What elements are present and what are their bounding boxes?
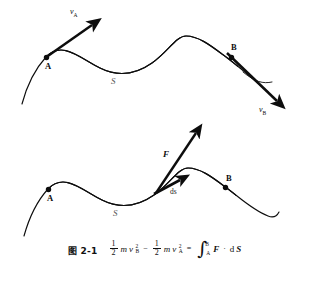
- figure-number: 图 2-1: [68, 240, 98, 257]
- dot-product-operator: ·: [221, 244, 228, 253]
- differential-d: d: [230, 244, 235, 254]
- upper-path-label: S: [111, 77, 116, 86]
- work-energy-equation: 1 2 m v 2 B − 1 2 m v 2 A = ∫: [109, 240, 242, 258]
- force-vector-arrow: [156, 133, 196, 193]
- displacement-ds-label: ds: [170, 188, 177, 196]
- lower-diagram: [24, 133, 279, 236]
- lower-path-label: S: [113, 209, 118, 218]
- velocity-a-arrow: [45, 25, 92, 58]
- velocity-a-label: vA: [70, 8, 78, 18]
- integral: ∫ B A: [197, 241, 210, 256]
- speed-symbol-a: v: [172, 244, 176, 254]
- upper-point-b-label: B: [231, 43, 237, 52]
- lower-point-b-label: B: [226, 174, 232, 183]
- lower-point-a-label: A: [47, 194, 53, 203]
- speed-b-indices: 2 B: [136, 244, 140, 254]
- lower-trajectory-curve: [24, 168, 279, 236]
- figure-caption: 图 2-1 1 2 m v 2 B − 1 2 m v 2 A =: [0, 240, 309, 258]
- upper-diagram: [22, 25, 277, 104]
- upper-point-a-label: A: [45, 62, 51, 71]
- force-label: F: [163, 150, 169, 159]
- integral-limits: B A: [205, 241, 210, 256]
- lower-point-b-dot: [223, 185, 228, 190]
- force-vector-symbol: F: [213, 244, 219, 254]
- speed-a-indices: 2 A: [179, 244, 183, 254]
- mass-symbol-second: m: [164, 244, 171, 254]
- path-vector-symbol: S: [236, 244, 241, 254]
- speed-symbol-b: v: [129, 244, 133, 254]
- velocity-b-arrow: [227, 53, 277, 101]
- equals-operator: =: [185, 244, 194, 253]
- one-half-second: 1 2: [153, 240, 161, 258]
- physics-figure: vA A S B vB F A S ds B 图 2-1 1 2 m v 2 B…: [0, 0, 309, 284]
- one-half-first: 1 2: [110, 240, 118, 258]
- minus-operator: −: [141, 244, 150, 253]
- mass-symbol-first: m: [121, 244, 128, 254]
- velocity-b-label: vB: [259, 106, 266, 116]
- lower-trajectory-dotted-span: [24, 168, 279, 236]
- lower-point-a-dot: [46, 187, 51, 192]
